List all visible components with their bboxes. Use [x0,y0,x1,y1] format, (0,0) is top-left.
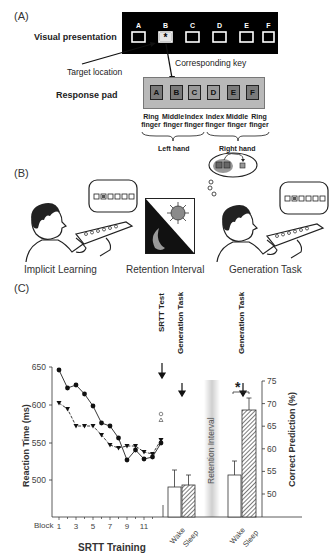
srtt-test-open-circle [159,412,163,416]
svg-text:600: 600 [32,400,46,410]
svg-text:7: 7 [108,522,113,531]
key-a: A [150,85,163,100]
svg-text:650: 650 [32,362,46,372]
svg-text:500: 500 [32,475,46,485]
svg-text:75: 75 [267,376,277,386]
x-ticks: 135 7911 [57,522,149,531]
implicit-learning-illustration [14,172,139,262]
srtt-test-annotation: SRTT Test [157,293,166,332]
caption-retention-interval: Retention Interval [126,264,204,275]
x-title: SRTT Training [78,542,146,553]
finger-label: Indexfinger [183,113,205,129]
left-hand-label: Left hand [158,145,190,152]
svg-text:9: 9 [125,522,130,531]
finger-label: Ringfinger [248,113,270,129]
svg-text:55: 55 [267,466,277,476]
key-c: C [188,85,201,100]
svg-text:60: 60 [267,444,277,454]
y-left-ticks: 650600550500 [32,362,46,485]
target-location-arrow [82,44,152,64]
generation-task-illustration [205,150,333,262]
x-block-label: Block [34,521,54,530]
y-right-title: Correct Prediction (%) [287,392,297,487]
svg-text:1: 1 [57,522,62,531]
bar-wake-1 [168,487,181,517]
annotation-arrows [159,363,246,396]
finger-label: Middlefinger [225,113,249,129]
panel-c-label: (C) [14,282,29,294]
significance-star: * [235,379,240,395]
retention-interval-label: Retention Interval [206,417,216,484]
hand-braces [140,131,272,143]
series-circles [57,368,164,463]
svg-text:65: 65 [267,421,277,431]
key-b: B [170,85,183,100]
day-night-icon [145,198,195,254]
finger-label: Ringfinger [140,113,162,129]
y-right-ticks: 757065 605550 [267,376,277,499]
corresponding-key-arrow [166,44,172,78]
svg-text:3: 3 [74,522,79,531]
response-pad: A B C D E F [143,77,265,109]
caption-generation-task: Generation Task [229,264,302,275]
bar-sleep-1 [182,485,195,517]
finger-label: Indexfinger [204,113,226,129]
bar-wake-2 [228,475,241,517]
response-pad-label: Response pad [56,90,118,100]
series-triangles [57,401,164,457]
key-d: D [207,85,220,100]
bar-sleep-2 [242,410,256,517]
corresponding-key-label: Corresponding key [175,58,246,68]
srtt-test-open-triangle [159,418,163,422]
key-e: E [227,85,240,100]
key-f: F [246,85,259,100]
svg-text:70: 70 [267,399,277,409]
svg-text:11: 11 [140,522,149,531]
finger-label: Middlefinger [161,113,185,129]
svg-text:5: 5 [91,522,96,531]
svg-text:50: 50 [267,489,277,499]
caption-implicit-learning: Implicit Learning [24,264,97,275]
y-left-title: Reaction Time (ms) [21,404,31,487]
finger-labels: Ringfinger Middlefinger Indexfinger Inde… [140,113,270,133]
svg-text:550: 550 [32,438,46,448]
target-location-label: Target location [67,67,122,77]
